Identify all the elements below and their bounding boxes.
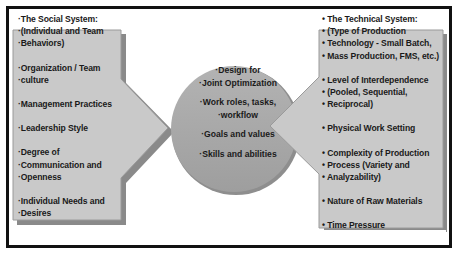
joint-optimization-text: ·Design for ·Joint Optimization ·Work ro… <box>178 64 298 167</box>
social-line: ·Behaviors) <box>18 37 112 49</box>
spacer <box>18 50 112 62</box>
technical-line: • Level of Interdependence <box>322 74 439 86</box>
social-line: ·Individual Needs and <box>18 195 112 207</box>
spacer <box>322 207 439 219</box>
technical-line: • Time Pressure <box>322 219 439 231</box>
center-line: ·Joint Optimization <box>178 77 298 90</box>
social-line: ·(Individual and Team <box>18 25 112 37</box>
spacer <box>18 110 112 122</box>
social-line: ·Leadership Style <box>18 122 112 134</box>
technical-line: • Nature of Raw Materials <box>322 195 439 207</box>
spacer <box>322 183 439 195</box>
technical-line: • Complexity of Production <box>322 147 439 159</box>
technical-line: • Mass Production, FMS, etc.) <box>322 50 439 62</box>
spacer <box>322 110 439 122</box>
social-line: ·Degree of <box>18 146 112 158</box>
technical-line: • Reciprocal) <box>322 98 439 110</box>
technical-line: • Physical Work Setting <box>322 122 439 134</box>
spacer <box>322 135 439 147</box>
social-line: ·Desires <box>18 207 112 219</box>
technical-line: • (Type of Production <box>322 25 439 37</box>
center-line: ·workflow <box>178 109 298 122</box>
center-line: ·Goals and values <box>178 128 298 141</box>
spacer <box>322 62 439 74</box>
social-system-title: ·The Social System: <box>18 13 112 25</box>
spacer <box>18 183 112 195</box>
center-line: ·Skills and abilities <box>178 148 298 161</box>
center-line: ·Work roles, tasks, <box>178 96 298 109</box>
spacer <box>18 86 112 98</box>
time-pressure-band <box>316 230 446 244</box>
social-line: ·Communication and <box>18 159 112 171</box>
technical-system-text: • The Technical System: • (Type of Produ… <box>322 13 439 231</box>
social-line: ·culture <box>18 74 112 86</box>
technical-line: • Analyzability) <box>322 171 439 183</box>
social-system-text: ·The Social System: ·(Individual and Tea… <box>18 13 112 219</box>
technical-line: • Process (Variety and <box>322 159 439 171</box>
social-line: ·Openness <box>18 171 112 183</box>
social-line: ·Management Practices <box>18 98 112 110</box>
technical-line: • (Pooled, Sequential, <box>322 86 439 98</box>
center-line: ·Design for <box>178 64 298 77</box>
technical-line: • Technology - Small Batch, <box>322 37 439 49</box>
spacer <box>18 134 112 146</box>
social-line: ·Organization / Team <box>18 62 112 74</box>
technical-system-title: • The Technical System: <box>322 13 439 25</box>
